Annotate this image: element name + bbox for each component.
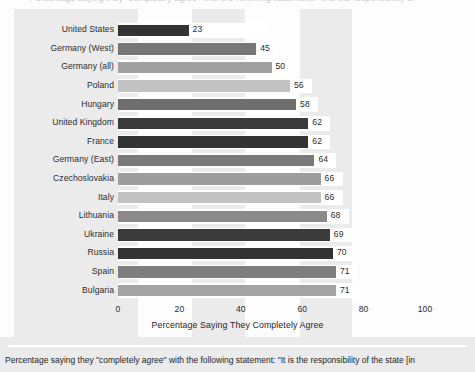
x-axis: 020406080100	[0, 304, 475, 320]
bar-value-label: 23	[193, 24, 203, 34]
x-axis-tick-label: 60	[297, 304, 307, 314]
bar-row: Germany (East)64	[0, 151, 475, 170]
category-label: Germany (all)	[61, 61, 114, 71]
bar	[118, 99, 296, 110]
bar-value-label: 66	[325, 173, 335, 183]
category-label: United States	[62, 24, 114, 34]
bar-value-label: 62	[312, 136, 322, 146]
category-label: Russia	[87, 247, 114, 257]
bar-row: Czechoslovakia66	[0, 170, 475, 189]
bar-row: Italy66	[0, 188, 475, 207]
bar	[118, 285, 336, 296]
bar	[118, 211, 327, 222]
bar-value-label: 71	[340, 266, 350, 276]
category-label: Germany (East)	[53, 154, 114, 164]
category-label: France	[87, 136, 114, 146]
bar-row: Germany (West)45	[0, 40, 475, 59]
bar-value-label: 71	[340, 285, 350, 295]
bar	[118, 62, 272, 73]
bar	[118, 43, 256, 54]
bar	[118, 229, 330, 240]
clipped-header-strip: Percentage saying they "completely agree…	[0, 0, 475, 9]
x-axis-tick-label: 100	[418, 304, 432, 314]
bar-row: Lithuania68	[0, 207, 475, 226]
plot-area: United States23Germany (West)45Germany (…	[0, 9, 475, 337]
bar	[118, 80, 290, 91]
category-label: Lithuania	[79, 210, 114, 220]
bar-value-label: 64	[318, 154, 328, 164]
bar-value-label: 45	[260, 43, 270, 53]
bar-value-label: 70	[337, 247, 347, 257]
category-label: Bulgaria	[82, 285, 114, 295]
bar-value-label: 58	[300, 99, 310, 109]
x-axis-tick-label: 0	[116, 304, 121, 314]
x-axis-tick-label: 80	[359, 304, 369, 314]
bar-row: United Kingdom62	[0, 114, 475, 133]
category-label: Italy	[98, 192, 114, 202]
x-axis-tick-label: 40	[236, 304, 246, 314]
category-label: Czechoslovakia	[53, 173, 114, 183]
bar	[118, 136, 308, 147]
bar-value-label: 56	[294, 80, 304, 90]
bar	[118, 266, 336, 277]
bar-row: Spain71	[0, 263, 475, 282]
bar	[118, 118, 308, 129]
section-divider	[8, 345, 467, 347]
bar-row: United States23	[0, 21, 475, 40]
category-label: United Kingdom	[52, 117, 114, 127]
bar	[118, 248, 333, 259]
bar-row: Poland56	[0, 77, 475, 96]
bar-row: Germany (all)50	[0, 58, 475, 77]
chart-panel: United States23Germany (West)45Germany (…	[0, 9, 475, 337]
bar	[118, 173, 321, 184]
x-axis-tick-label: 20	[175, 304, 185, 314]
bar	[118, 155, 314, 166]
category-label: Hungary	[81, 99, 114, 109]
bar-value-label: 66	[325, 192, 335, 202]
bar-row: Russia70	[0, 244, 475, 263]
bar-value-label: 68	[331, 210, 341, 220]
bar-value-label: 50	[276, 61, 286, 71]
bar	[118, 25, 189, 36]
bar-value-label: 69	[334, 229, 344, 239]
bar-row: Ukraine69	[0, 226, 475, 245]
category-label: Spain	[92, 266, 114, 276]
bar-row: France62	[0, 133, 475, 152]
bar-value-label: 62	[312, 117, 322, 127]
x-axis-label: Percentage Saying They Completely Agree	[0, 320, 475, 330]
category-label: Ukraine	[84, 229, 114, 239]
bar	[118, 192, 321, 203]
bar-row: Bulgaria71	[0, 281, 475, 300]
category-label: Germany (West)	[50, 43, 114, 53]
clipped-header-text: Percentage saying they "completely agree…	[30, 0, 415, 3]
figure-caption: Percentage saying they "completely agree…	[5, 355, 473, 366]
bar-row: Hungary58	[0, 95, 475, 114]
category-label: Poland	[87, 80, 114, 90]
